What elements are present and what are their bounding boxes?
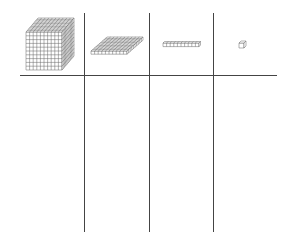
column-divider-3 xyxy=(213,13,214,232)
place-value-chart xyxy=(0,0,287,233)
ten-rod-icon xyxy=(162,40,204,50)
column-divider-2 xyxy=(149,13,150,232)
column-divider-1 xyxy=(84,13,85,232)
hundred-flat-icon xyxy=(89,31,147,57)
unit-cube-icon xyxy=(238,40,248,50)
thousand-cube-icon xyxy=(24,13,82,73)
